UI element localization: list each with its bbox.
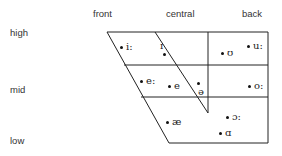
dot-icon (166, 121, 169, 124)
vowel-e-long: e: (140, 76, 155, 86)
dot-icon (248, 85, 251, 88)
vowel-schwa: ə (198, 87, 204, 97)
dot-icon (247, 45, 250, 48)
vowel-u-short: ʊ (221, 48, 233, 58)
dot-icon (219, 132, 222, 135)
vowel-e: e (168, 81, 180, 91)
vowel-u-long: u: (247, 41, 263, 51)
vowel-i-long: i: (120, 42, 133, 52)
vowel-a: ɑ (219, 128, 231, 138)
dot-icon (226, 116, 229, 119)
vowel-o-long: o: (248, 81, 263, 91)
vowel-open-o-long: ɔ: (226, 112, 241, 122)
vowel-I: ɪ (160, 41, 163, 51)
dot-icon (221, 52, 224, 55)
dot-icon (197, 82, 200, 85)
dot-icon (168, 85, 171, 88)
dot-icon (120, 46, 123, 49)
vowel-ae: æ (166, 117, 181, 127)
dot-icon (140, 80, 143, 83)
dot-icon (163, 53, 166, 56)
